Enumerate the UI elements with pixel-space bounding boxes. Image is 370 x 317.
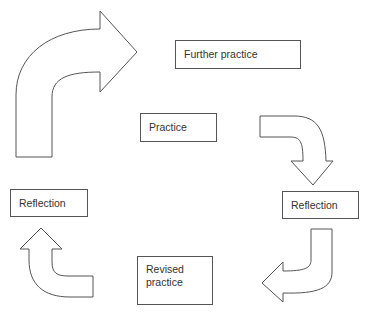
- node-label-line-1: Revised: [146, 263, 204, 276]
- node-revised-practice: Revised practice: [137, 256, 213, 305]
- node-practice: Practice: [140, 113, 217, 142]
- node-further-practice: Further practice: [175, 40, 301, 69]
- node-label: Reflection: [19, 197, 66, 210]
- curved-arrow-down-icon: [260, 116, 333, 185]
- node-label-line-2: practice: [146, 276, 204, 289]
- curved-arrow-left-icon: [262, 229, 332, 302]
- node-reflection-right: Reflection: [282, 191, 359, 219]
- curved-arrow-up-icon: [20, 228, 93, 297]
- node-label: Reflection: [291, 199, 338, 212]
- large-curved-arrow-right-icon: [16, 11, 137, 157]
- node-label: Further practice: [184, 48, 258, 61]
- node-reflection-left: Reflection: [10, 189, 88, 217]
- node-label: Practice: [149, 121, 187, 134]
